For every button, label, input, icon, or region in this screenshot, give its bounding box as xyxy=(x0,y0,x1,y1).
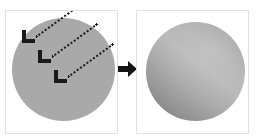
light-ray-2-arrowhead-icon xyxy=(38,50,51,63)
shaded-sphere-panel xyxy=(136,10,249,134)
flat-sphere-panel xyxy=(5,10,118,134)
light-ray-1-arrowhead-icon xyxy=(22,30,35,43)
gradient-shaded-sphere xyxy=(146,22,245,121)
right-arrow-icon xyxy=(118,59,137,79)
light-ray-3-arrowhead-icon xyxy=(54,70,67,83)
figure-root xyxy=(0,0,258,139)
